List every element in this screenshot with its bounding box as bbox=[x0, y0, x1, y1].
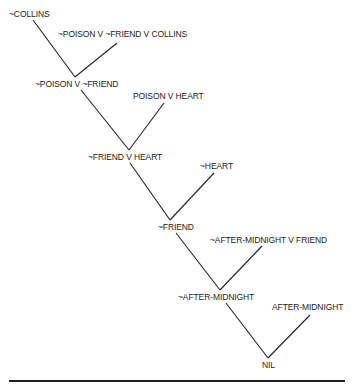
clause-not-after-midnight-or-friend: ~AFTER-MIDNIGHT V FRIEND bbox=[210, 235, 327, 245]
clause-nil: NIL bbox=[262, 360, 275, 370]
clause-not-poison-or-not-friend: ~POISON V ~FRIEND bbox=[35, 79, 118, 89]
edge-n5-n7 bbox=[130, 163, 170, 220]
clause-not-poison-or-not-friend-or-collins: ~POISON V ~FRIEND V COLLINS bbox=[58, 29, 187, 39]
edge-n2-n3 bbox=[75, 43, 117, 77]
resolution-tree-diagram: ~COLLINS ~POISON V ~FRIEND V COLLINS ~PO… bbox=[0, 0, 354, 389]
clause-poison-or-heart: POISON V HEART bbox=[133, 91, 204, 101]
edge-n6-n7 bbox=[170, 173, 214, 220]
clause-not-after-midnight: ~AFTER-MIDNIGHT bbox=[178, 292, 254, 302]
clause-not-collins: ~COLLINS bbox=[9, 9, 50, 19]
edge-n4-n5 bbox=[129, 103, 164, 150]
clause-after-midnight: AFTER-MIDNIGHT bbox=[272, 302, 343, 312]
bottom-rule-divider bbox=[9, 380, 345, 382]
edge-n3-n5 bbox=[81, 90, 129, 150]
edge-n9-n11 bbox=[226, 303, 268, 358]
edge-n8-n9 bbox=[220, 246, 262, 290]
edge-n10-n11 bbox=[268, 315, 310, 358]
tree-edges bbox=[0, 0, 354, 389]
clause-not-heart: ~HEART bbox=[200, 161, 233, 171]
clause-not-friend-or-heart: ~FRIEND V HEART bbox=[88, 152, 162, 162]
clause-not-friend: ~FRIEND bbox=[158, 222, 194, 232]
